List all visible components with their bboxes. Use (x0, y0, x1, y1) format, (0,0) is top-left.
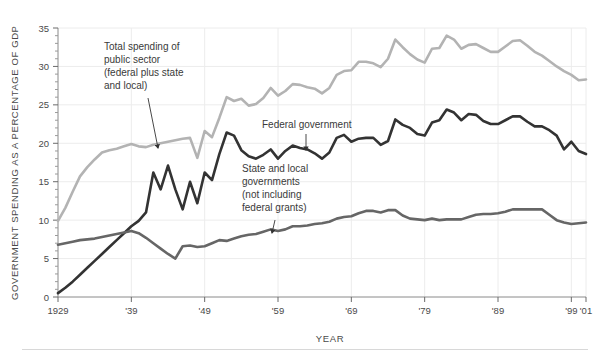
annotation-line: State and local (242, 163, 308, 174)
x-tick-label: '69 (345, 305, 357, 316)
annotation-line: governments (242, 176, 300, 187)
annotation-line: and local) (104, 80, 147, 91)
y-tick-label: 0 (44, 292, 49, 303)
x-axis-title: YEAR (316, 333, 344, 344)
y-tick-label: 5 (44, 253, 49, 264)
annotations: Total spending ofpublic sector(federal p… (104, 41, 352, 233)
x-tick-label: 1929 (47, 305, 68, 316)
series-line (58, 209, 586, 258)
x-tick-label: '89 (492, 305, 504, 316)
y-tick-label: 15 (38, 176, 49, 187)
annotation-line: Federal government (262, 119, 352, 130)
y-tick-label: 20 (38, 138, 49, 149)
state-local-annotation: State and localgovernments(not including… (242, 163, 308, 233)
x-tick-label: '49 (198, 305, 210, 316)
annotation-arrow (148, 98, 158, 148)
annotation-line: (not including (242, 189, 301, 200)
annotation-line: (federal plus state (104, 67, 184, 78)
annotation-line: public sector (104, 54, 161, 65)
x-tick-label: '99 (565, 305, 577, 316)
annotation-line: federal grants) (242, 202, 306, 213)
federal-government-annotation: Federal government (262, 119, 352, 150)
line-chart: 051015202530351929'39'49'59'69'79'89'99'… (0, 0, 606, 360)
chart-figure: 051015202530351929'39'49'59'69'79'89'99'… (0, 0, 606, 360)
y-axis-title: GOVERNMENT SPENDING AS A PERCENTAGE OF G… (9, 25, 20, 300)
x-tick-label: '79 (418, 305, 430, 316)
series-line (58, 109, 586, 293)
annotation-line: Total spending of (104, 41, 180, 52)
bottom-divider (22, 349, 588, 350)
x-tick-label: '39 (125, 305, 137, 316)
x-tick-label: '59 (272, 305, 284, 316)
y-tick-label: 35 (38, 23, 49, 34)
x-tick-label: '01 (580, 305, 592, 316)
y-tick-label: 25 (38, 99, 49, 110)
y-tick-label: 30 (38, 61, 49, 72)
total-spending-annotation: Total spending ofpublic sector(federal p… (104, 41, 184, 148)
y-tick-label: 10 (38, 215, 49, 226)
